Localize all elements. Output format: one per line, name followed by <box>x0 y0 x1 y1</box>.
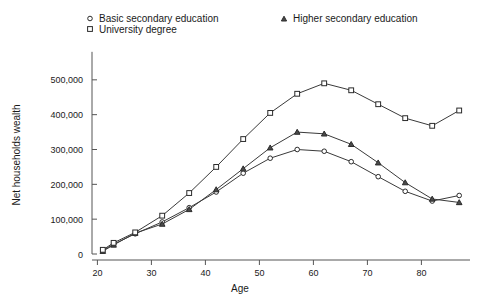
y-tick-label: 0 <box>78 250 83 260</box>
chart-plot-area <box>100 81 462 253</box>
chart-legend: Basic secondary education Higher seconda… <box>88 13 418 35</box>
y-tick-label: 100,000 <box>50 215 83 225</box>
x-tick-label: 20 <box>92 268 102 278</box>
y-tick-label: 200,000 <box>50 180 83 190</box>
circle-marker-icon <box>349 159 354 164</box>
square-marker-icon <box>349 88 354 93</box>
x-axis-title: Age <box>231 283 249 294</box>
x-tick-label: 40 <box>200 268 210 278</box>
legend-entry-higher-secondary: Higher secondary education <box>281 13 417 24</box>
square-marker-icon <box>403 116 408 121</box>
circle-marker-icon <box>457 193 462 198</box>
triangle-marker-icon <box>348 141 354 146</box>
square-marker-icon <box>100 247 105 252</box>
y-tick-label: 500,000 <box>50 75 83 85</box>
circle-marker-icon <box>403 189 408 194</box>
circle-marker-icon <box>295 147 300 152</box>
square-marker-icon <box>268 111 273 116</box>
legend-label-basic-secondary: Basic secondary education <box>99 13 219 24</box>
chart-figure: Basic secondary education Higher seconda… <box>0 0 477 304</box>
square-marker-icon <box>187 191 192 196</box>
y-tick-label: 300,000 <box>50 145 83 155</box>
triangle-marker-icon <box>456 200 462 205</box>
square-marker-icon <box>430 123 435 128</box>
triangle-marker-icon <box>429 196 435 201</box>
x-tick-label: 60 <box>308 268 318 278</box>
y-tick-label: 400,000 <box>50 110 83 120</box>
legend-entry-university-degree: University degree <box>88 24 178 35</box>
x-tick-label: 50 <box>254 268 264 278</box>
circle-marker-icon <box>241 171 246 176</box>
circle-marker-icon <box>322 149 327 154</box>
legend-entry-basic-secondary: Basic secondary education <box>88 13 219 24</box>
square-marker-icon <box>322 81 327 86</box>
circle-marker-icon <box>376 174 381 179</box>
legend-label-university-degree: University degree <box>99 24 177 35</box>
triangle-marker-icon <box>267 145 273 150</box>
circle-marker-icon <box>88 16 93 21</box>
square-marker-icon <box>88 27 93 32</box>
net-wealth-by-age-line-chart: Basic secondary education Higher seconda… <box>0 0 477 304</box>
circle-marker-icon <box>268 156 273 161</box>
series-basic-secondary-education <box>101 147 462 253</box>
square-marker-icon <box>214 165 219 170</box>
square-marker-icon <box>295 91 300 96</box>
legend-label-higher-secondary: Higher secondary education <box>293 13 418 24</box>
x-tick-label: 70 <box>362 268 372 278</box>
y-axis-title: Net households wealth <box>11 104 22 205</box>
square-marker-icon <box>241 137 246 142</box>
square-marker-icon <box>133 230 138 235</box>
x-tick-label: 30 <box>146 268 156 278</box>
triangle-marker-icon <box>294 129 300 134</box>
square-marker-icon <box>111 240 116 245</box>
x-tick-label: 80 <box>416 268 426 278</box>
triangle-marker-icon <box>321 131 327 136</box>
triangle-marker-icon <box>375 160 381 165</box>
triangle-marker-icon <box>281 16 286 21</box>
series-line <box>103 150 459 251</box>
square-marker-icon <box>376 102 381 107</box>
square-marker-icon <box>457 108 462 113</box>
square-marker-icon <box>160 213 165 218</box>
